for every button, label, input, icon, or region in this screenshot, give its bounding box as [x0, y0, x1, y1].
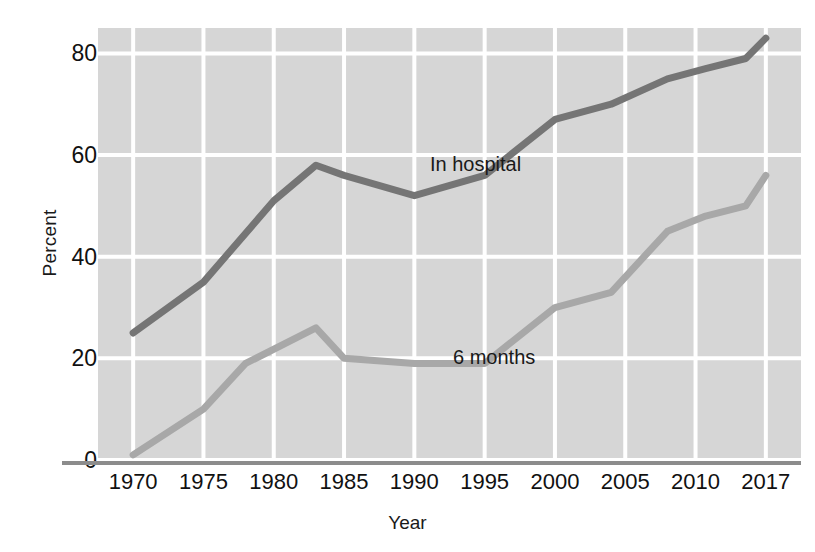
x-axis-title: Year	[0, 512, 815, 534]
x-axis-tick-label: 2017	[721, 471, 811, 493]
line-chart-figure: Percent 020406080 In hospital 6 months 1…	[0, 0, 815, 552]
x-axis-tick-labels: 1970197519801985199019952000200520102017	[0, 0, 815, 552]
